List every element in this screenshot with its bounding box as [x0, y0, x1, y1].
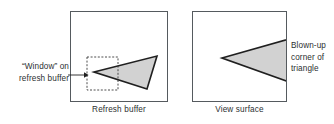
label-blown-up-corner: Blown-up corner of triangle — [291, 40, 334, 75]
label-window-line-2: refresh buffer — [3, 73, 69, 85]
panel-refresh-buffer — [70, 11, 168, 102]
caption-refresh-buffer: Refresh buffer — [70, 105, 168, 114]
label-blowup-line-2: corner of — [291, 52, 334, 64]
label-window-line-1: “Window” on — [3, 61, 69, 73]
figure-window-to-viewport: “Window” on refresh buffer Blown-up corn… — [0, 0, 334, 124]
label-window-on-refresh-buffer: “Window” on refresh buffer — [3, 61, 69, 84]
caption-view-surface: View surface — [192, 105, 287, 114]
label-blowup-line-1: Blown-up — [291, 40, 334, 52]
panel-view-surface — [192, 11, 287, 102]
label-blowup-line-3: triangle — [291, 63, 334, 75]
